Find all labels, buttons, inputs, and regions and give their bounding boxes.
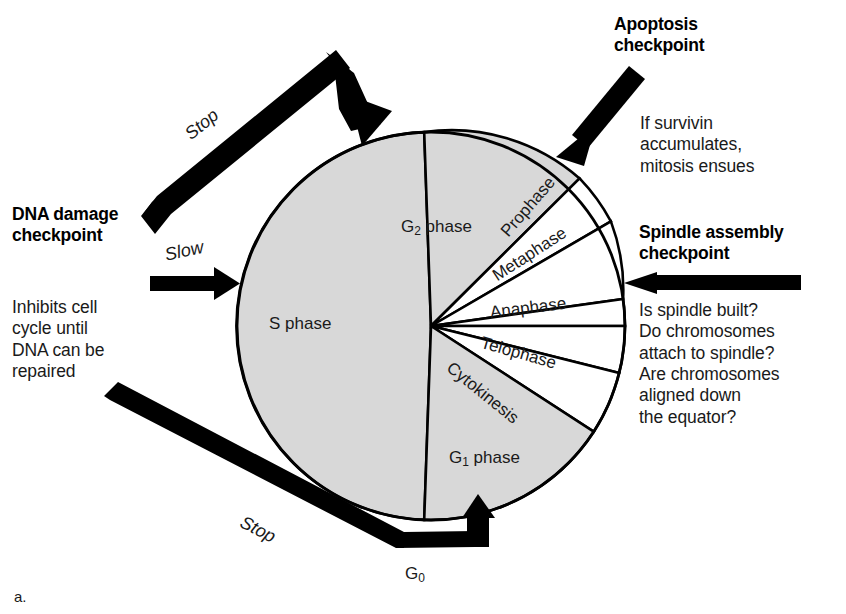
dna-damage-checkpoint-title-line1: DNA damage: [12, 204, 118, 225]
spindle-assembly-arrow: [624, 272, 801, 294]
slice-label-g1-phase: G1 phase: [430, 427, 520, 489]
apoptosis-arrow: [556, 66, 645, 166]
spindle-assembly-checkpoint-title-line1: Spindle assembly: [639, 222, 784, 243]
spindle-assembly-checkpoint-note: Is spindle built?Do chromosomesattach to…: [639, 300, 780, 428]
apoptosis-checkpoint-note: If survivinaccumulates,mitosis ensues: [640, 113, 754, 177]
dna-damage-checkpoint-title-line2: checkpoint: [12, 225, 102, 246]
dna-damage-checkpoint-note: Inhibits cellcycle untilDNA can berepair…: [12, 297, 104, 382]
slice-label-s-phase: S phase: [269, 314, 331, 335]
slice-label-g2-phase: G2 phase: [382, 196, 472, 258]
figure-canvas: G2 phase Prophase Metaphase Anaphase Tel…: [0, 0, 846, 614]
g0-label: G0: [405, 564, 425, 585]
figure-caption: a.: [14, 588, 27, 606]
spindle-assembly-checkpoint-title-line2: checkpoint: [639, 243, 729, 264]
apoptosis-checkpoint-title-line1: Apoptosis: [614, 14, 698, 35]
slow-arrow: [150, 267, 240, 300]
apoptosis-checkpoint-title-line2: checkpoint: [614, 35, 704, 56]
